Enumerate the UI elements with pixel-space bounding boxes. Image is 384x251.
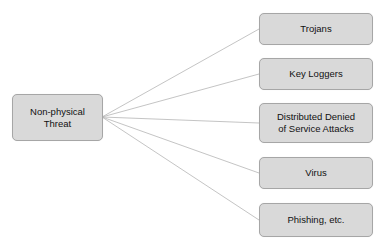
child-label: Key Loggers [289, 68, 342, 80]
child-label-line1: Distributed Denied [277, 111, 355, 123]
child-label: Phishing, etc. [287, 214, 344, 226]
root-node-non-physical-threat: Non-physical Threat [12, 94, 103, 141]
child-node-virus: Virus [259, 157, 373, 189]
connector-ddos [102, 117, 259, 123]
child-node-trojans: Trojans [259, 13, 373, 45]
connector-virus [102, 117, 259, 173]
child-label: Virus [305, 167, 326, 179]
root-label-line2: Threat [30, 118, 85, 130]
child-node-phishing: Phishing, etc. [259, 203, 373, 237]
connector-phishing [102, 117, 259, 220]
child-node-ddos: Distributed Denied of Service Attacks [259, 103, 373, 143]
root-label-line1: Non-physical [30, 106, 85, 118]
connector-key-loggers [102, 74, 259, 117]
child-label-line2: of Service Attacks [277, 123, 355, 135]
child-label: Trojans [300, 23, 331, 35]
child-node-key-loggers: Key Loggers [259, 58, 373, 90]
connector-trojans [102, 29, 259, 117]
